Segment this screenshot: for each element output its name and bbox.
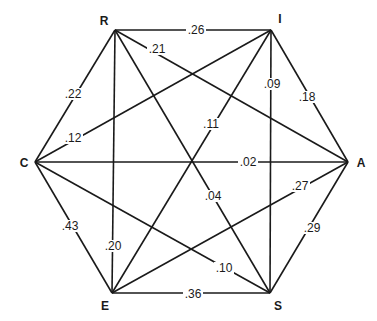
edges [35,30,348,293]
edge-value-e-s: .36 [185,287,202,301]
edge-value-i-e: .11 [203,117,219,131]
edge-value-c-s: .10 [216,261,233,275]
edge-value-r-c: .22 [65,87,82,101]
node-label-s: S [274,299,282,313]
edge-value-i-s: .09 [264,77,281,91]
node-label-c: C [20,156,29,170]
edge-value-i-c: .12 [65,131,82,145]
node-label-r: R [100,14,109,28]
edge-value-a-s: .29 [304,221,321,235]
edge-value-a-e: .27 [292,179,309,193]
correlation-hexagon-diagram: .26.21.22.20.04.18.09.12.11.02.43.10.27.… [0,0,377,321]
edge-value-r-e: .20 [105,239,122,253]
edge-value-r-i: .26 [188,23,205,37]
edge-value-r-a: .21 [149,42,166,56]
edge-value-r-s: .04 [205,189,222,203]
node-label-e: E [101,299,109,313]
node-label-i: I [278,12,281,26]
edge-value-c-e: .43 [62,219,79,233]
edge-value-c-a: .02 [240,155,257,169]
edge-value-i-a: .18 [299,90,316,104]
node-label-a: A [357,156,366,170]
